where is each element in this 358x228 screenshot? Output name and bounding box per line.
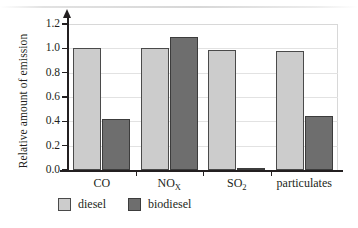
emissions-bar-chart: Relative amount of emission 0.00.20.40.6…	[0, 0, 358, 228]
y-axis-tick	[62, 72, 68, 73]
bar-diesel-SO2	[208, 50, 236, 170]
y-axis-tick-label: 0.4	[30, 115, 60, 127]
bar-diesel-CO	[73, 48, 101, 170]
legend-label-biodiesel: biodiesel	[148, 197, 191, 212]
legend-item-diesel: diesel	[58, 197, 106, 212]
y-axis-tick	[62, 145, 68, 146]
y-axis-tick-label: 0.0	[30, 164, 60, 176]
gridline	[68, 48, 338, 49]
bar-biodiesel-particulates	[305, 116, 333, 170]
legend-label-diesel: diesel	[78, 197, 106, 212]
plot-area	[68, 24, 338, 170]
y-axis-tick-label: 1.2	[30, 18, 60, 30]
y-axis-arrow-icon	[63, 9, 71, 18]
y-axis-tick-label: 0.6	[30, 91, 60, 103]
y-axis-tick	[62, 169, 68, 170]
legend-item-biodiesel: biodiesel	[128, 197, 191, 212]
x-axis-label-particulates: particulates	[259, 176, 349, 191]
y-axis-tick	[62, 48, 68, 49]
y-axis-tick	[62, 96, 68, 97]
y-axis-tick	[62, 121, 68, 122]
y-axis-line	[67, 16, 69, 171]
y-axis-title: Relative amount of emission	[17, 21, 29, 181]
y-axis-tick	[62, 23, 68, 24]
y-axis-tick-label: 0.8	[30, 67, 60, 79]
bar-biodiesel-NOX	[170, 37, 198, 170]
chart-legend: dieselbiodiesel	[58, 197, 191, 212]
legend-swatch-diesel	[58, 198, 71, 211]
bar-diesel-particulates	[276, 51, 304, 170]
y-axis-tick-label: 1.0	[30, 42, 60, 54]
x-axis-line	[60, 170, 343, 172]
y-axis-tick-label: 0.2	[30, 140, 60, 152]
bar-diesel-NOX	[141, 48, 169, 170]
bar-biodiesel-CO	[102, 119, 130, 170]
legend-swatch-biodiesel	[128, 198, 141, 211]
